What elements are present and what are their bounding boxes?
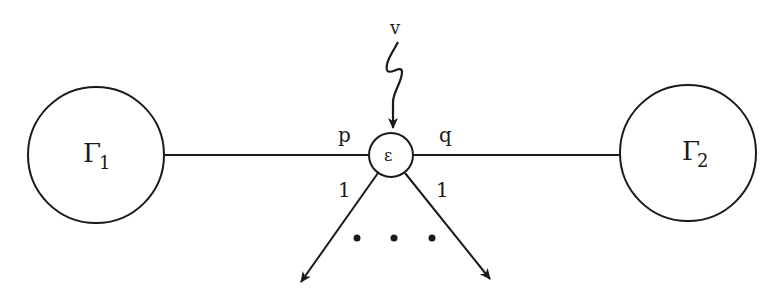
node-gamma-1-subscript: 1 bbox=[99, 152, 110, 173]
edge-label-p: p bbox=[338, 123, 351, 147]
edge-label-lower-right: 1 bbox=[436, 178, 449, 202]
node-gamma-2-subscript: 2 bbox=[697, 150, 708, 171]
edge-label-lower-left: 1 bbox=[338, 178, 351, 202]
node-gamma-2: Γ 2 bbox=[620, 85, 756, 221]
node-gamma-1: Γ 1 bbox=[28, 87, 164, 223]
feynman-diagram: Γ 1 Γ 2 ε p q v 1 1 bbox=[0, 0, 784, 297]
edge-label-q: q bbox=[439, 123, 452, 147]
ellipsis-dots bbox=[354, 235, 436, 242]
vertex-epsilon: ε bbox=[369, 133, 413, 177]
incoming-label-v: v bbox=[389, 17, 401, 38]
vertex-epsilon-label: ε bbox=[384, 146, 392, 165]
incoming-wavy-arrow bbox=[387, 42, 402, 128]
